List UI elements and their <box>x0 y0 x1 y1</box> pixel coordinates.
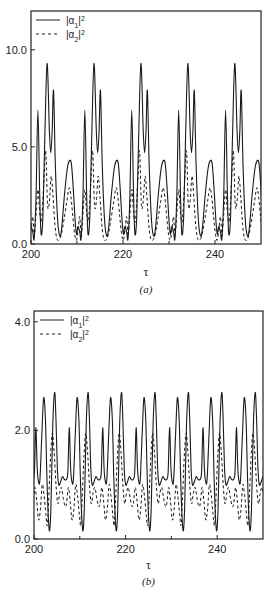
legend-label-alpha2: |α2|2 <box>66 29 85 43</box>
y-tick-label: 2.0 <box>15 424 30 436</box>
x-axis-label: τ <box>144 265 149 279</box>
y-tick-label: 10.0 <box>6 44 27 56</box>
panel-label: (b) <box>142 575 155 588</box>
legend-label-alpha1: |α1|2 <box>66 15 85 29</box>
series-group <box>0 392 271 531</box>
legend-label-alpha2: |α2|2 <box>70 329 89 343</box>
legend: |α1|2 |α2|2 <box>36 15 85 43</box>
x-tick-label: 220 <box>114 248 132 260</box>
x-tick-label: 220 <box>116 543 134 555</box>
panel-a: 2002202400.05.010.0 |α1|2 |α2|2 τ (a) <box>0 11 271 296</box>
legend-label-alpha1: |α1|2 <box>70 315 89 329</box>
legend: |α1|2 |α2|2 <box>40 315 89 343</box>
y-tick-label: 0.0 <box>12 238 27 250</box>
panel-b: 2002202400.02.04.0 |α1|2 |α2|2 τ (b) <box>0 311 271 588</box>
series-alpha1-line <box>0 63 271 240</box>
x-tick-label: 240 <box>206 248 224 260</box>
series-group <box>0 63 271 240</box>
y-tick-label: 0.0 <box>15 533 30 545</box>
y-tick-label: 5.0 <box>12 141 27 153</box>
panel-label: (a) <box>140 283 153 296</box>
figure: 2002202400.05.010.0 |α1|2 |α2|2 τ (a) 20… <box>0 0 271 595</box>
x-tick-label: 240 <box>208 543 226 555</box>
y-tick-label: 4.0 <box>15 316 30 328</box>
x-axis-label: τ <box>146 558 151 572</box>
